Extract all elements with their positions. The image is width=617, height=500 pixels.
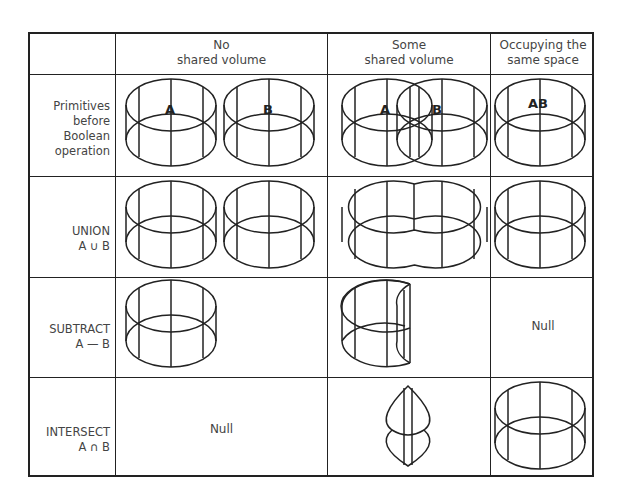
subtract-notched-cylinder-icon [341,280,410,367]
union-separate-a-icon [126,181,216,268]
subtract-cylinder-a-icon [126,280,216,367]
intersect-lens-icon [386,386,430,466]
overlapping-cylinders-icon [342,79,487,166]
label-a: A [165,102,175,117]
label-ab: AB [528,96,548,111]
coincident-cylinders-icon [495,79,585,166]
cylinder-a-icon [126,79,216,166]
cylinder-b-icon [224,79,314,166]
label-b: B [432,102,442,117]
cylinder-figures: A B A B AB [0,0,617,500]
label-a: A [380,102,390,117]
label-b: B [263,102,273,117]
union-merged-icon [342,181,487,268]
intersect-single-icon [495,382,585,469]
union-single-icon [495,181,585,268]
union-separate-b-icon [224,181,314,268]
